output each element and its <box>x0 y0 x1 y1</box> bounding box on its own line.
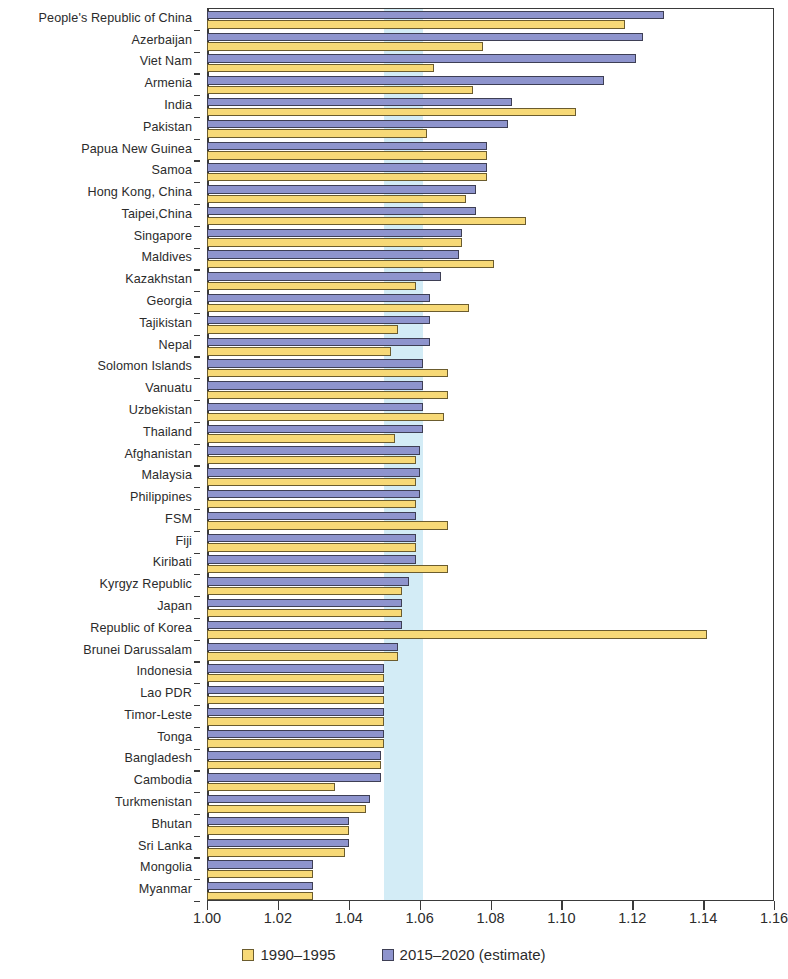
bar-2015-2020 <box>207 686 384 694</box>
bar-2015-2020 <box>207 33 643 41</box>
bar-2015-2020 <box>207 338 430 346</box>
y-axis-tick <box>194 204 200 205</box>
bar-2015-2020 <box>207 229 462 237</box>
bar-1990-1995 <box>207 64 434 72</box>
x-axis-tick-label: 1.06 <box>406 910 434 926</box>
bar-row <box>207 161 773 183</box>
y-axis-tick <box>194 553 200 554</box>
bar-row <box>207 706 773 728</box>
bar-row <box>207 750 773 772</box>
bar-1990-1995 <box>207 238 462 246</box>
bar-1990-1995 <box>207 696 384 704</box>
y-axis-tick <box>194 749 200 750</box>
y-axis-tick <box>194 792 200 793</box>
x-axis-tick-label: 1.10 <box>547 910 575 926</box>
y-axis-label: Malaysia <box>142 469 193 482</box>
y-axis-tick <box>194 291 200 292</box>
bar-row <box>207 880 773 902</box>
x-axis-tick <box>278 901 279 910</box>
bar-2015-2020 <box>207 860 313 868</box>
bar-2015-2020 <box>207 599 402 607</box>
bar-2015-2020 <box>207 490 420 498</box>
bar-row <box>207 74 773 96</box>
bar-1990-1995 <box>207 108 576 116</box>
y-axis-tick <box>194 640 200 641</box>
y-axis-label: Uzbekistan <box>129 404 192 417</box>
bar-1990-1995 <box>207 478 416 486</box>
bar-1990-1995 <box>207 674 384 682</box>
bar-1990-1995 <box>207 652 398 660</box>
y-axis-label: Sri Lanka <box>138 840 192 853</box>
bar-row <box>207 554 773 576</box>
y-axis-tick <box>194 160 200 161</box>
bar-row <box>207 118 773 140</box>
bar-1990-1995 <box>207 86 473 94</box>
y-axis-category-labels: People's Republic of ChinaAzerbaijanViet… <box>0 8 200 901</box>
bar-1990-1995 <box>207 500 416 508</box>
bar-1990-1995 <box>207 870 313 878</box>
bar-row <box>207 227 773 249</box>
bar-1990-1995 <box>207 434 395 442</box>
bar-2015-2020 <box>207 577 409 585</box>
y-axis-label: Azerbaijan <box>131 34 192 47</box>
bar-row <box>207 423 773 445</box>
y-axis-tick <box>194 531 200 532</box>
x-axis-tick-label: 1.00 <box>193 910 221 926</box>
bar-1990-1995 <box>207 391 448 399</box>
bar-rows <box>207 9 773 900</box>
y-axis-tick <box>194 95 200 96</box>
bar-row <box>207 314 773 336</box>
bar-2015-2020 <box>207 425 423 433</box>
x-axis-tick <box>632 901 633 910</box>
y-axis-label: Republic of Korea <box>90 622 192 635</box>
bar-2015-2020 <box>207 272 441 280</box>
y-axis-tick <box>194 356 200 357</box>
y-axis-tick <box>194 378 200 379</box>
bar-row <box>207 837 773 859</box>
bar-1990-1995 <box>207 217 526 225</box>
x-axis-tick <box>207 901 208 910</box>
y-axis-label: Nepal <box>159 339 192 352</box>
bar-row <box>207 684 773 706</box>
bar-2015-2020 <box>207 54 636 62</box>
bar-2015-2020 <box>207 11 664 19</box>
bar-1990-1995 <box>207 805 366 813</box>
y-axis-label: Tajikistan <box>139 317 192 330</box>
bar-row <box>207 53 773 75</box>
y-axis-label: Solomon Islands <box>97 360 192 373</box>
bar-1990-1995 <box>207 347 391 355</box>
bar-row <box>207 662 773 684</box>
y-axis-tick <box>194 465 200 466</box>
bar-2015-2020 <box>207 294 430 302</box>
legend-swatch-past-icon <box>242 949 254 961</box>
bar-1990-1995 <box>207 282 416 290</box>
y-axis-label: Kazakhstan <box>125 273 192 286</box>
y-axis-label: Timor-Leste <box>124 709 192 722</box>
bar-2015-2020 <box>207 403 423 411</box>
y-axis-tick <box>194 814 200 815</box>
bar-2015-2020 <box>207 882 313 890</box>
bar-row <box>207 357 773 379</box>
y-axis-label: Pakistan <box>143 121 192 134</box>
bar-1990-1995 <box>207 151 487 159</box>
y-axis-tick <box>194 400 200 401</box>
bar-2015-2020 <box>207 534 416 542</box>
bar-row <box>207 140 773 162</box>
bar-row <box>207 488 773 510</box>
legend-label-past: 1990–1995 <box>260 946 335 963</box>
bar-row <box>207 532 773 554</box>
x-axis-tick-label: 1.12 <box>618 910 646 926</box>
y-axis-tick <box>194 727 200 728</box>
y-axis-tick <box>194 248 200 249</box>
y-axis-tick <box>194 313 200 314</box>
bar-1990-1995 <box>207 173 487 181</box>
y-axis-tick <box>194 618 200 619</box>
y-axis-label: Afghanistan <box>124 448 192 461</box>
y-axis-label: Viet Nam <box>140 55 192 68</box>
legend-item-recent: 2015–2020 (estimate) <box>382 946 546 963</box>
y-axis-label: Vanuatu <box>145 382 192 395</box>
bar-2015-2020 <box>207 664 384 672</box>
y-axis-tick <box>194 770 200 771</box>
y-axis-label: Bhutan <box>151 818 192 831</box>
bar-1990-1995 <box>207 20 625 28</box>
